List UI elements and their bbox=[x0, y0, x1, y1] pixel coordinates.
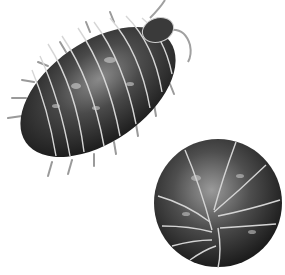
rolled-pill-bug bbox=[154, 139, 282, 268]
illustration bbox=[0, 0, 285, 275]
extended-pill-bug bbox=[0, 0, 199, 183]
